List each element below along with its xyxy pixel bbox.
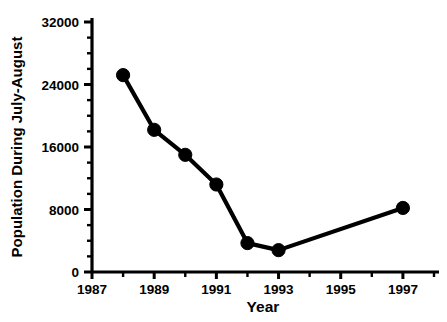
- x-axis-tick-label: 1993: [264, 282, 295, 297]
- data-series-line: [123, 75, 403, 250]
- x-axis-tick-label: 1995: [326, 282, 357, 297]
- data-point-marker: [272, 244, 285, 257]
- population-line-chart: 0800016000240003200019871989199119931995…: [0, 0, 447, 322]
- y-axis-tick-label: 8000: [49, 203, 79, 218]
- data-point-marker: [179, 148, 192, 161]
- y-axis-tick-label: 0: [71, 265, 79, 280]
- chart-canvas: 0800016000240003200019871989199119931995…: [0, 0, 447, 322]
- data-point-marker: [396, 201, 409, 214]
- data-point-marker: [241, 236, 254, 249]
- y-axis-tick-label: 16000: [41, 140, 79, 155]
- y-axis-tick-label: 24000: [41, 78, 79, 93]
- x-axis-title: Year: [247, 298, 280, 315]
- y-axis-title: Population During July-August: [8, 37, 25, 258]
- y-axis-tick-label: 32000: [41, 15, 79, 30]
- x-axis-tick-label: 1997: [388, 282, 418, 297]
- data-point-marker: [116, 69, 129, 82]
- data-point-marker: [210, 178, 223, 191]
- data-point-marker: [148, 123, 161, 136]
- x-axis-tick-label: 1989: [139, 282, 169, 297]
- x-axis-tick-label: 1991: [201, 282, 232, 297]
- x-axis-tick-label: 1987: [77, 282, 107, 297]
